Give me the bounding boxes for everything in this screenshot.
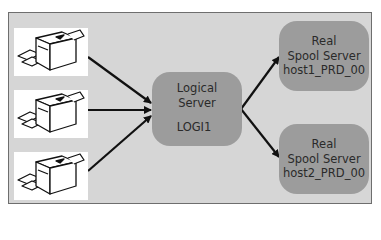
logical-server-name: LOGI1 xyxy=(177,120,212,135)
real-server-1-line1: Real xyxy=(312,34,337,49)
printer-1 xyxy=(14,28,88,76)
real-server-1-line2: Spool Server xyxy=(287,49,360,64)
real-server-2-line2: Spool Server xyxy=(287,152,360,167)
printer-icon xyxy=(14,90,88,138)
real-spool-server-2: Real Spool Server host2_PRD_00 xyxy=(279,124,369,194)
logical-server-line2: Server xyxy=(178,96,216,111)
printer-icon xyxy=(14,152,88,200)
logical-server-line1: Logical xyxy=(177,81,217,96)
printer-icon xyxy=(14,28,88,76)
printer-2 xyxy=(14,90,88,138)
real-server-2-line1: Real xyxy=(312,137,337,152)
real-spool-server-1: Real Spool Server host1_PRD_00 xyxy=(279,21,369,91)
real-server-1-name: host1_PRD_00 xyxy=(283,63,365,78)
real-server-2-name: host2_PRD_00 xyxy=(283,166,365,181)
logical-server-node: Logical Server LOGI1 xyxy=(152,72,242,146)
printer-3 xyxy=(14,152,88,200)
